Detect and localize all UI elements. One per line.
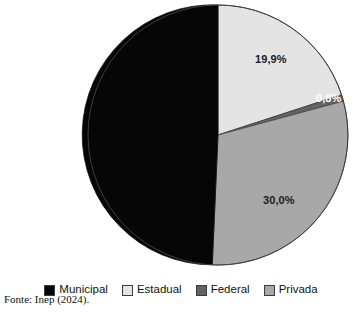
legend-item-estadual[interactable]: Estadual — [122, 284, 182, 296]
legend-item-privada[interactable]: Privada — [264, 284, 318, 296]
legend-item-federal[interactable]: Federal — [196, 284, 250, 296]
legend-label-federal: Federal — [211, 284, 250, 296]
pie-slice-municipal[interactable] — [82, 5, 218, 265]
slice-value-estadual: 19,9% — [255, 54, 287, 65]
slice-value-federal: 0,8% — [316, 93, 341, 104]
source-note: Fonte: Inep (2024). — [4, 294, 89, 305]
legend-label-estadual: Estadual — [137, 284, 182, 296]
legend-swatch-privada — [264, 285, 275, 296]
legend-label-privada: Privada — [279, 284, 318, 296]
pie-svg — [0, 0, 362, 272]
legend-swatch-federal — [196, 285, 207, 296]
legend-swatch-estadual — [122, 285, 133, 296]
pie-plot-area: 49,3% 19,9% 0,8% 30,0% — [0, 0, 362, 272]
pie-chart-figure: 49,3% 19,9% 0,8% 30,0% Municipal Estadua… — [0, 0, 362, 313]
slice-value-privada: 30,0% — [263, 195, 295, 206]
slice-value-municipal: 49,3% — [33, 118, 65, 129]
